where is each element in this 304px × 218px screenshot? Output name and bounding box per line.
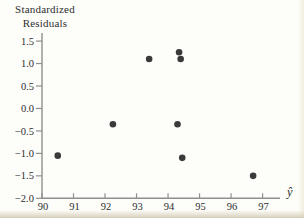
x-tick-label: 92 <box>101 201 112 212</box>
data-point <box>179 155 186 162</box>
data-point <box>174 121 181 128</box>
data-point <box>146 56 153 63</box>
data-point <box>250 173 257 180</box>
x-tick-label: 90 <box>38 201 49 212</box>
x-tick-label: 95 <box>195 201 206 212</box>
data-point <box>54 152 61 159</box>
y-tick-label: −2.0 <box>15 193 34 204</box>
x-tick-label: 97 <box>258 201 269 212</box>
x-tick-label: 91 <box>69 201 80 212</box>
y-tick-label: −0.5 <box>15 126 34 137</box>
y-tick-label: 0.5 <box>21 81 34 92</box>
data-point <box>177 56 184 63</box>
y-tick-label: −1.5 <box>15 170 34 181</box>
standardized-residual-plot: Standardized Residuals 1.51.00.50.0−0.5−… <box>0 0 304 218</box>
x-axis-title: ŷ <box>285 185 293 199</box>
data-point <box>110 121 117 128</box>
y-tick-label: 1.5 <box>21 36 34 47</box>
data-point <box>176 49 183 56</box>
y-tick-label: −1.0 <box>15 148 34 159</box>
x-tick-label: 93 <box>132 201 143 212</box>
x-tick-label: 96 <box>227 201 238 212</box>
y-tick-label: 0.0 <box>21 103 34 114</box>
scatter-plot-canvas: 1.51.00.50.0−0.5−1.0−1.5−2.0909192939495… <box>0 0 304 218</box>
y-tick-label: 1.0 <box>21 58 34 69</box>
x-tick-label: 94 <box>164 201 175 212</box>
